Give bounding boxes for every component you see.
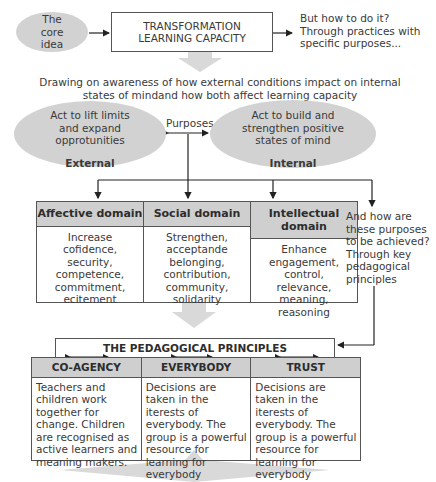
principle-title: EVERYBODY <box>142 358 251 378</box>
domain-body: Increasecofidence,security, competence,c… <box>37 227 143 306</box>
domain-body: Strengthen,acceptandebelonging, contribu… <box>144 227 250 306</box>
principle-body: Teachers and children work together for … <box>32 378 141 469</box>
domain-social: Social domain Strengthen,acceptandebelon… <box>144 202 251 302</box>
big-arrow-1 <box>178 50 222 72</box>
domains-table: Affective domain Increasecofidence,secur… <box>36 201 358 303</box>
transformation-title: TRANSFORMATION LEARNING CAPACITY <box>122 20 262 45</box>
purposes-label: Purposes <box>166 117 212 130</box>
domain-affective: Affective domain Increasecofidence,secur… <box>37 202 144 302</box>
external-text: Act to lift limits and expand opprotunit… <box>40 109 140 147</box>
principle-title: CO-AGENCY <box>32 358 141 378</box>
internal-label: Internal <box>210 157 376 170</box>
external-label: External <box>14 157 166 170</box>
principle-body: Decisions are taken in the iterests of e… <box>142 378 251 481</box>
transformation-box: TRANSFORMATION LEARNING CAPACITY <box>111 12 273 52</box>
domain-intellectual: Intellectual domain Enhanceengagement,co… <box>251 202 357 302</box>
domain-title: Affective domain <box>37 202 143 227</box>
internal-text: Act to build and strengthen positive sta… <box>228 109 358 147</box>
principle-body: Decisions are taken in the iterests of e… <box>251 378 360 481</box>
external-oval: Act to lift limits and expand opprotunit… <box>14 101 166 167</box>
awareness-text: Drawing on awareness of how external con… <box>20 76 420 101</box>
principle-trust: TRUST Decisions are taken in the iterest… <box>251 358 360 460</box>
domain-body: Enhanceengagement,control, relevance,mea… <box>251 239 357 318</box>
principle-everybody: EVERYBODY Decisions are taken in the ite… <box>142 358 252 460</box>
core-idea-oval: The core idea <box>16 12 88 52</box>
how-question: But how to do it? Through practices with… <box>300 12 430 50</box>
awareness-line-2: states of mindand how both affect learni… <box>20 89 420 102</box>
core-idea-label: The core idea <box>30 13 74 51</box>
principles-title-frame: THE PEDAGOGICAL PRINCIPLES <box>55 338 335 359</box>
big-arrow-2 <box>172 302 216 328</box>
principle-title: TRUST <box>251 358 360 378</box>
principles-title: THE PEDAGOGICAL PRINCIPLES <box>56 339 334 354</box>
principles-table: CO-AGENCY Teachers and children work tog… <box>31 357 361 461</box>
domain-title: Intellectual domain <box>251 202 357 239</box>
awareness-line-1: Drawing on awareness of how external con… <box>20 76 420 89</box>
internal-oval: Act to build and strengthen positive sta… <box>210 100 376 168</box>
principle-co-agency: CO-AGENCY Teachers and children work tog… <box>32 358 142 460</box>
domain-title: Social domain <box>144 202 250 227</box>
how-note: And how are these purposes to be achieve… <box>346 210 432 285</box>
